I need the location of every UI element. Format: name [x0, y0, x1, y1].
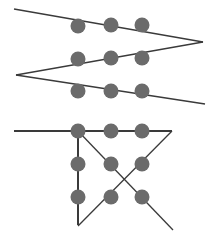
figure-surface	[0, 0, 220, 245]
dot-row2-col2	[104, 157, 119, 172]
dot-row2-col1	[71, 52, 86, 67]
dot-row2-col1	[71, 157, 86, 172]
dot-row3-col2	[104, 190, 119, 205]
dot-row3-col1	[71, 190, 86, 205]
dot-row1-col3	[135, 18, 150, 33]
dot-row3-col3	[135, 190, 150, 205]
dot-row2-col2	[104, 51, 119, 66]
dot-row1-col2	[104, 18, 119, 33]
dot-row3-col3	[135, 84, 150, 99]
dot-row2-col3	[135, 157, 150, 172]
bottom-figure-dots	[71, 124, 150, 205]
dot-row3-col1	[71, 84, 86, 99]
dot-row2-col3	[135, 51, 150, 66]
dot-row1-col2	[104, 124, 119, 139]
canvas-background	[0, 0, 220, 245]
dot-row3-col2	[104, 84, 119, 99]
dot-row1-col1	[71, 124, 86, 139]
dot-row1-col1	[71, 19, 86, 34]
figure-canvas	[0, 0, 220, 245]
dot-row1-col3	[135, 124, 150, 139]
top-figure-dots	[71, 18, 150, 99]
